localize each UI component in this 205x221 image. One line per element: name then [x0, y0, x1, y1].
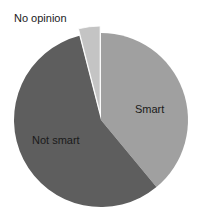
pie-chart: Smart Not smart No opinion: [0, 0, 205, 221]
label-no-opinion: No opinion: [14, 12, 67, 24]
label-smart: Smart: [135, 103, 164, 115]
label-not-smart: Not smart: [32, 134, 80, 146]
